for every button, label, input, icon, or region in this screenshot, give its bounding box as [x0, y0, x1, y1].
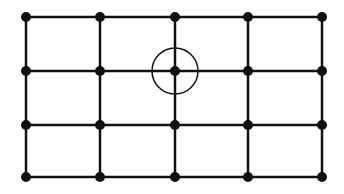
grid-node-r2-c1: [21, 66, 31, 76]
grid-node-r1-c2: [95, 12, 105, 22]
grid-node-r1-c5: [317, 12, 327, 22]
grid-node-r2-c5: [317, 66, 327, 76]
grid-node-r1-c1: [21, 12, 31, 22]
grid-node-r4-c1: [21, 172, 31, 182]
grid-node-r1-c4: [243, 12, 253, 22]
grid-node-r3-c1: [21, 120, 31, 130]
grid-node-r4-c2: [95, 172, 105, 182]
grid-node-r2-c4: [243, 66, 253, 76]
grid-lines: [26, 17, 322, 177]
grid-node-r3-c2: [95, 120, 105, 130]
grid-node-r2-c2: [95, 66, 105, 76]
grid-node-r3-c5: [317, 120, 327, 130]
grid-node-r4-c4: [243, 172, 253, 182]
grid-node-r4-c3: [170, 172, 180, 182]
grid-diagram: [0, 0, 344, 194]
grid-node-r3-c4: [243, 120, 253, 130]
grid-node-r2-c3: [170, 66, 180, 76]
grid-node-r3-c3: [170, 120, 180, 130]
grid-node-r1-c3: [170, 12, 180, 22]
grid-node-r4-c5: [317, 172, 327, 182]
